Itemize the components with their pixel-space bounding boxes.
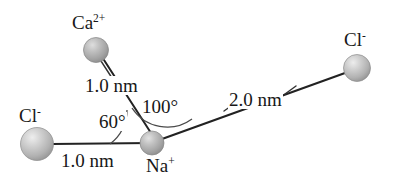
ion-label-cl-right: Cl-	[344, 30, 366, 49]
ion-sphere-ca	[84, 38, 109, 63]
bond-na-cl-left	[52, 143, 152, 144]
ion-label-na-symbol: Na	[146, 155, 168, 176]
ion-label-ca: Ca2+	[72, 13, 105, 32]
ion-geometry-figure: Ca2+ Cl- Na+ Cl- 1.0 nm 1.0 nm 2.0 nm 60…	[0, 0, 394, 180]
ion-sphere-cl-right	[344, 55, 371, 82]
ion-label-na: Na+	[146, 156, 174, 175]
ion-sphere-cl-left	[21, 128, 54, 161]
ion-layer	[21, 38, 371, 161]
angle-label-100: 100°	[141, 97, 179, 116]
distance-label-na-cl-right: 2.0 nm	[228, 90, 283, 109]
ion-label-ca-charge: 2+	[93, 12, 105, 24]
ion-label-cl-left-symbol: Cl	[19, 105, 37, 126]
ion-label-ca-symbol: Ca	[72, 12, 93, 33]
ion-sphere-na	[140, 131, 164, 155]
distance-label-na-ca: 1.0 nm	[84, 76, 139, 95]
bond-layer	[52, 60, 345, 144]
ion-label-cl-right-symbol: Cl	[344, 29, 362, 50]
angle-label-60: 60°	[98, 112, 127, 131]
distance-label-na-cl-left: 1.0 nm	[60, 151, 115, 170]
ion-label-cl-left-charge: -	[37, 105, 41, 117]
ion-label-na-charge: +	[168, 155, 174, 167]
ion-label-cl-left: Cl-	[19, 106, 41, 125]
ion-label-cl-right-charge: -	[362, 29, 366, 41]
